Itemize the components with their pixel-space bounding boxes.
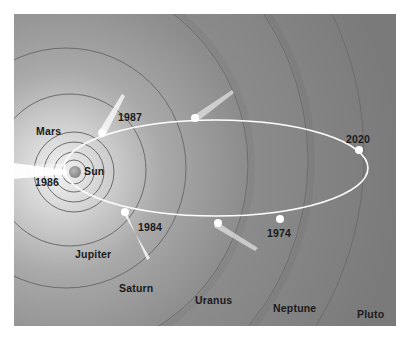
label-jupiter: Jupiter: [75, 248, 111, 260]
label-1987: 1987: [118, 111, 142, 123]
label-sun: Sun: [84, 165, 104, 177]
label-mars: Mars: [36, 125, 61, 137]
label-pluto: Pluto: [357, 308, 384, 320]
label-1974: 1974: [267, 227, 291, 239]
solar-system-diagram: Mars Sun 1986 1987 2020 1984 1974 Jupite…: [14, 14, 396, 326]
label-2020: 2020: [346, 133, 370, 145]
label-uranus: Uranus: [195, 294, 232, 306]
label-neptune: Neptune: [273, 302, 316, 314]
diagram-canvas: [14, 14, 396, 326]
label-1984: 1984: [138, 221, 162, 233]
sun-icon: [69, 166, 81, 178]
label-saturn: Saturn: [119, 282, 153, 294]
comet-2020-icon: [355, 146, 363, 154]
label-1986: 1986: [35, 176, 59, 188]
comet-1974-icon: [276, 215, 284, 223]
